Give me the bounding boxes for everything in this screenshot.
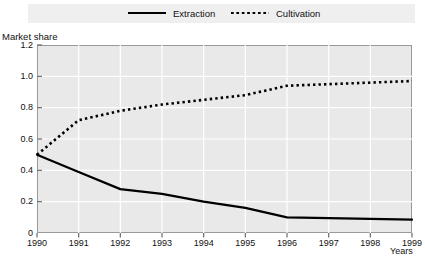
- x-tick-label: 1990: [27, 238, 47, 248]
- series-line-cultivation: [37, 81, 412, 155]
- x-tick-label: 1996: [277, 238, 297, 248]
- y-axis-tick-labels: 00.20.40.60.81.01.2: [4, 45, 33, 233]
- x-tick-label: 1997: [319, 238, 339, 248]
- x-tick-label: 1991: [69, 238, 89, 248]
- y-tick-label: 0: [7, 229, 33, 238]
- chart-legend: Extraction Cultivation: [28, 4, 415, 23]
- x-axis-tick-labels: 1990199119921993199419951996199719981999: [37, 238, 412, 252]
- legend-label-extraction: Extraction: [173, 8, 215, 19]
- plot-area: [37, 45, 412, 233]
- x-tick-label: 1994: [194, 238, 214, 248]
- x-axis-title: Years: [390, 246, 413, 256]
- legend-swatch-solid-line-icon: [128, 8, 166, 19]
- legend-item-extraction[interactable]: Extraction: [128, 4, 215, 23]
- y-tick-label: 0.6: [7, 135, 33, 144]
- y-tick-label: 1.2: [7, 41, 33, 50]
- x-axis-ticks: [37, 233, 412, 238]
- y-tick-label: 0.2: [7, 197, 33, 206]
- x-tick-label: 1998: [360, 238, 380, 248]
- plot-svg: [37, 45, 412, 233]
- y-axis-ticks: [37, 45, 42, 202]
- legend-swatch-dotted-line-icon: [231, 8, 269, 19]
- legend-item-cultivation[interactable]: Cultivation: [231, 4, 320, 23]
- x-tick-label: 1993: [152, 238, 172, 248]
- y-tick-label: 1.0: [7, 72, 33, 81]
- x-tick-label: 1992: [110, 238, 130, 248]
- legend-label-cultivation: Cultivation: [276, 8, 320, 19]
- y-tick-label: 0.8: [7, 103, 33, 112]
- x-tick-label: 1995: [235, 238, 255, 248]
- series-line-extraction: [37, 155, 412, 220]
- y-tick-label: 0.4: [7, 166, 33, 175]
- chart-figure: Extraction Cultivation Market share 00.2…: [0, 0, 425, 260]
